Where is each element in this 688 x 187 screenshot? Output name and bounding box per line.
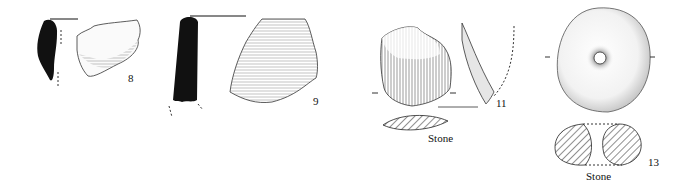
stone-side-11 — [462, 23, 494, 104]
item-11: 11 Stone — [372, 23, 514, 144]
cross-section-11 — [383, 115, 448, 130]
item-number-label: 13 — [648, 156, 660, 168]
material-label: Stone — [428, 132, 453, 144]
item-number-label: 11 — [496, 97, 507, 109]
profile-section-8 — [37, 20, 57, 81]
finds-plate: 8 9 11 Stone 13 Stone — [0, 0, 688, 187]
perforation-hole — [594, 52, 606, 64]
item-number-label: 8 — [128, 72, 134, 84]
sherd-exterior-9 — [230, 19, 318, 103]
cross-section-13-left — [555, 124, 592, 165]
item-9: 9 — [169, 16, 319, 117]
material-label: Stone — [586, 170, 611, 182]
item-number-label: 9 — [313, 95, 319, 107]
item-8: 8 — [37, 19, 140, 88]
profile-section-9 — [173, 17, 198, 102]
item-13: 13 Stone — [545, 8, 660, 182]
cross-section-13-right — [603, 124, 642, 165]
